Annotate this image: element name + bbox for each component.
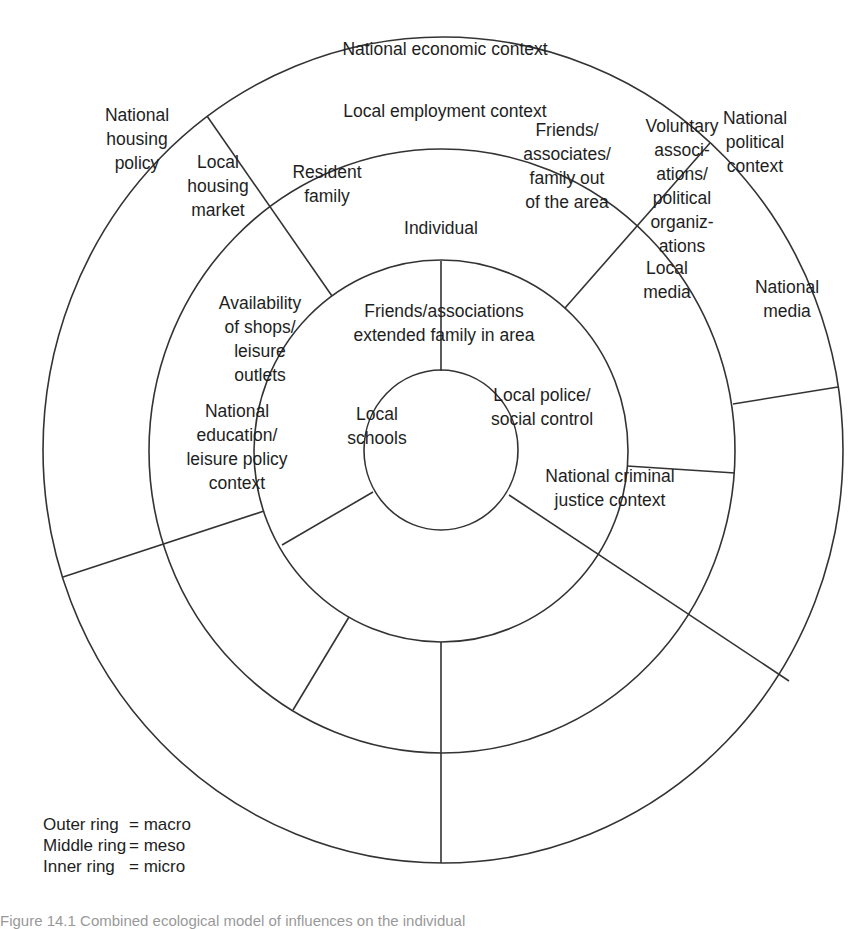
label-line: housing <box>106 129 167 149</box>
label-line: market <box>191 200 245 220</box>
legend-row-middle: Middle ring = meso <box>43 835 191 856</box>
label-line: Local <box>356 404 398 424</box>
label-line: family out <box>530 168 605 188</box>
label-national-education-leisure-policy-context: Nationaleducation/leisure policycontext <box>186 401 287 493</box>
label-line: political <box>653 188 711 208</box>
label-friends-extended-family-in-area: Friends/associationsextended family in a… <box>354 301 535 345</box>
label-line: of the area <box>525 192 609 212</box>
label-line: Local <box>646 258 688 278</box>
legend-row-outer: Outer ring = macro <box>43 814 191 835</box>
label-local-employment-context: Local employment context <box>343 101 546 121</box>
divider-schools-shops <box>293 617 349 710</box>
legend-key: Outer ring <box>43 814 129 835</box>
label-line: organiz- <box>650 212 713 232</box>
label-line: National <box>205 401 269 421</box>
label-line: Local <box>197 152 239 172</box>
segment-labels: National economic contextNationalhousing… <box>105 39 819 510</box>
label-line: context <box>727 156 784 176</box>
divider-family-friends-area <box>282 492 373 545</box>
figure-caption: Figure 14.1 Combined ecological model of… <box>0 912 465 929</box>
label-national-criminal-justice-context: National criminaljustice context <box>545 466 674 510</box>
label-line: National <box>105 105 169 125</box>
legend-value: = micro <box>129 856 185 877</box>
legend-key: Middle ring <box>43 835 129 856</box>
label-line: National <box>755 277 819 297</box>
label-line: outlets <box>234 365 286 385</box>
label-line: Friends/ <box>535 120 598 140</box>
label-national-media: Nationalmedia <box>755 277 819 321</box>
legend-value: = macro <box>129 814 191 835</box>
label-line: justice context <box>554 490 666 510</box>
label-line: family <box>304 186 350 206</box>
label-line: policy <box>115 153 160 173</box>
label-line: leisure policy <box>186 449 287 469</box>
label-national-political-context: Nationalpoliticalcontext <box>723 108 787 176</box>
divider-housing-education <box>63 511 264 577</box>
label-national-housing-policy: Nationalhousingpolicy <box>105 105 169 173</box>
label-friends-family-out-of-area: Friends/associates/family outof the area <box>523 120 611 212</box>
concentric-rings <box>43 37 843 863</box>
label-line: media <box>643 282 691 302</box>
label-line: housing <box>187 176 248 196</box>
label-line: Availability <box>219 293 302 313</box>
label-line: political <box>726 132 784 152</box>
label-line: National <box>723 108 787 128</box>
label-line: associates/ <box>523 144 611 164</box>
ring-legend: Outer ring = macro Middle ring = meso In… <box>43 814 191 877</box>
label-line: Voluntary <box>646 116 719 136</box>
label-line: context <box>209 473 266 493</box>
label-line: National economic context <box>342 39 547 59</box>
label-line: Resident <box>292 162 361 182</box>
label-line: extended family in area <box>354 325 535 345</box>
legend-value: = meso <box>129 835 185 856</box>
outer-ring <box>43 37 843 863</box>
label-local-schools: Localschools <box>347 404 407 448</box>
label-line: Local employment context <box>343 101 546 121</box>
label-line: Individual <box>404 218 478 238</box>
label-individual: Individual <box>404 218 478 238</box>
label-line: schools <box>347 428 407 448</box>
label-line: Friends/associations <box>364 301 524 321</box>
legend-key: Inner ring <box>43 856 129 877</box>
label-line: Local police/ <box>493 385 590 405</box>
divider-political-media <box>733 387 838 404</box>
label-national-economic-context: National economic context <box>342 39 547 59</box>
label-line: ations/ <box>656 164 708 184</box>
label-line: media <box>763 301 811 321</box>
label-line: education/ <box>197 425 278 445</box>
legend-row-inner: Inner ring = micro <box>43 856 191 877</box>
label-line: of shops/ <box>224 317 295 337</box>
label-line: associ- <box>654 140 710 160</box>
divider-media-criminal <box>509 495 789 681</box>
label-line: National criminal <box>545 466 674 486</box>
label-line: ations <box>659 236 706 256</box>
label-voluntary-associations: Voluntaryassoci-ations/politicalorganiz-… <box>646 116 719 256</box>
label-line: social control <box>491 409 593 429</box>
label-line: leisure <box>234 341 286 361</box>
label-resident-family: Residentfamily <box>292 162 361 206</box>
